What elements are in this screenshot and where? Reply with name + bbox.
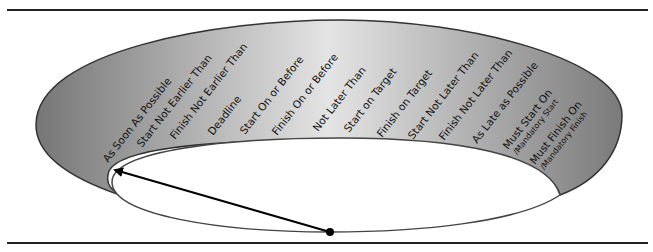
inner-ellipse	[112, 138, 560, 232]
pointer-pivot-dot	[326, 228, 334, 236]
constraint-diagram: As Soon As PossibleStart Not Earlier Tha…	[0, 0, 653, 252]
